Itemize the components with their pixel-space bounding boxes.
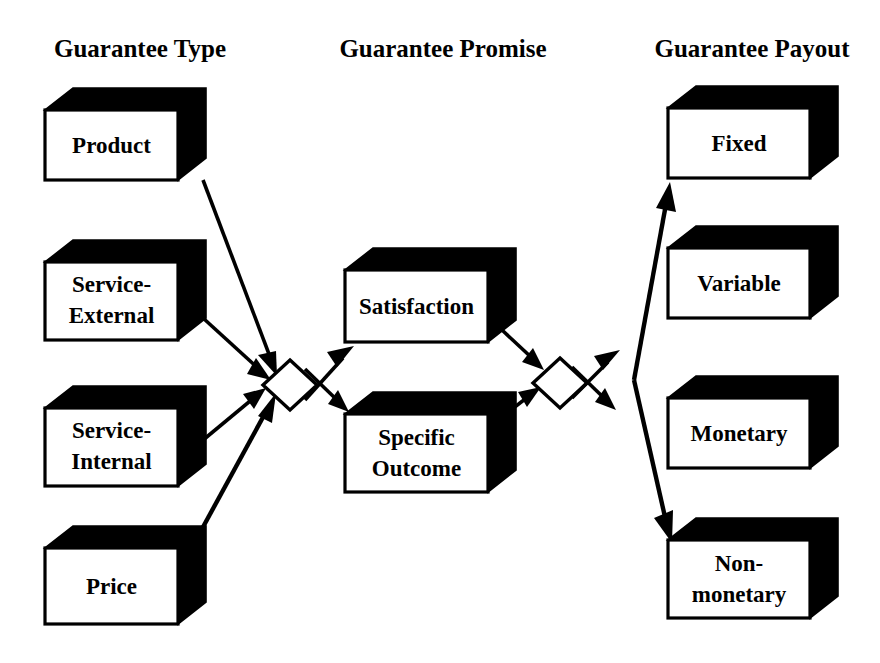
box-fixed-label-line-1: Fixed [712,131,767,156]
arrow-head-satisfaction [327,346,354,367]
box-monetary[interactable]: Monetary [668,376,838,468]
column-header-guarantee-payout: Guarantee Payout [654,35,850,62]
arrow-head-fixed [656,182,676,212]
box-product[interactable]: Product [45,88,206,180]
box-price-label-line-1: Price [86,574,137,599]
box-fixed[interactable]: Fixed [668,86,838,178]
box-price[interactable]: Price [45,526,206,624]
box-non-monetary[interactable]: Non- monetary [668,518,838,618]
arrow-head-diamond2-out-up [594,350,620,370]
box-service-external[interactable]: Service- External [45,240,206,340]
box-variable-label-line-1: Variable [697,271,781,296]
box-monetary-label-line-1: Monetary [690,421,788,446]
box-non-monetary-label-line-2: monetary [692,582,787,607]
box-service-internal-label-line-2: Internal [71,449,152,474]
box-service-internal-label-line-1: Service- [72,418,151,443]
connection-service-external-to-diamond1 [203,318,271,380]
box-satisfaction[interactable]: Satisfaction [345,248,516,342]
box-service-internal[interactable]: Service- Internal [45,386,206,486]
column-header-guarantee-type: Guarantee Type [54,35,226,62]
box-specific-outcome-label-line-2: Outcome [372,456,461,481]
box-service-external-label-line-2: External [69,303,155,328]
column-header-guarantee-promise: Guarantee Promise [339,35,546,62]
box-specific-outcome-label-line-1: Specific [378,425,455,450]
box-satisfaction-label-line-1: Satisfaction [359,294,474,319]
connection-satisfaction-to-diamond2 [502,330,544,370]
box-non-monetary-label-line-1: Non- [715,551,764,576]
box-specific-outcome[interactable]: Specific Outcome [345,392,516,492]
box-variable[interactable]: Variable [668,226,838,318]
box-product-label-line-1: Product [72,133,151,158]
box-service-external-label-line-1: Service- [72,272,151,297]
connection-product-to-diamond1 [203,180,277,376]
guarantee-framework-diagram: Guarantee Type Guarantee Promise Guarant… [0,0,880,663]
diagram-canvas: Guarantee Type Guarantee Promise Guarant… [0,0,880,663]
